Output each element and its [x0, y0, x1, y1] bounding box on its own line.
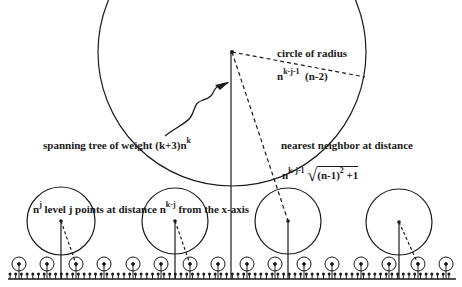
radius-exponent: k-j-1	[283, 67, 299, 76]
center-dots	[59, 50, 401, 224]
label-level-points: nj level j points at distance nk-j from …	[33, 204, 249, 215]
medium-circles	[27, 187, 432, 279]
level-text: level j points at distance n	[42, 203, 166, 215]
radius-factor: (n-2)	[305, 70, 328, 82]
level-distance-exponent: k-j	[166, 200, 176, 209]
sqrt-radicand: (n-1)2 +1	[317, 166, 358, 181]
label-radius-formula: nk-j-1 (n-2)	[277, 71, 328, 82]
big-circle	[98, 0, 366, 186]
nn-exponent: k-j-1	[288, 166, 304, 175]
sqrt-icon: √	[307, 165, 317, 185]
label-nearest-neighbor-formula: nk-j-1 √(n-1)2 +1	[282, 164, 358, 182]
spanning-tree-text: spanning tree of weight (k+3)n	[43, 139, 187, 151]
label-circle-of-radius: circle of radius	[277, 48, 347, 59]
spanning-exponent: k	[187, 136, 191, 145]
label-nearest-neighbor: nearest neighbor at distance	[281, 140, 413, 151]
level-exponent: j	[39, 200, 42, 209]
level-tail-text: from the x-axis	[176, 203, 249, 215]
axis-ticks-layer	[9, 273, 451, 280]
label-spanning-tree: spanning tree of weight (k+3)nk	[43, 140, 191, 151]
wavy-arrow	[165, 83, 228, 136]
arrowhead-icon	[215, 82, 229, 90]
